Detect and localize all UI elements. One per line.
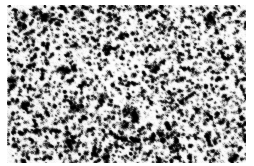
micrograph-image: [7, 5, 246, 163]
histopathology-micrograph: [7, 5, 246, 163]
page-root: [0, 0, 254, 166]
